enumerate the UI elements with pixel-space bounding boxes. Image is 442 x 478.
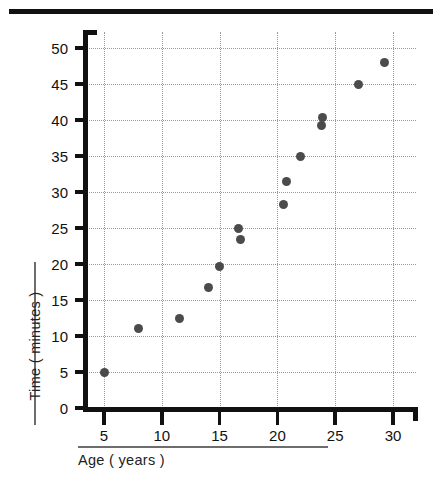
data-point <box>354 80 363 89</box>
y-tick-label-45: 45 <box>38 77 68 92</box>
y-axis-top-cap <box>83 30 97 35</box>
data-point <box>236 235 245 244</box>
x-tick-20 <box>276 412 280 425</box>
x-axis-title: Age ( years ) <box>78 452 165 468</box>
x-axis-line <box>83 407 418 412</box>
y-tick-label-30: 30 <box>38 185 68 200</box>
x-tick-label-10: 10 <box>142 428 182 443</box>
gridline-x-10 <box>162 32 163 408</box>
y-tick-40 <box>75 118 88 122</box>
y-tick-0 <box>75 406 88 410</box>
y-tick-label-25: 25 <box>38 221 68 236</box>
gridline-x-15 <box>220 32 221 408</box>
y-tick-45 <box>75 82 88 86</box>
x-tick-30 <box>391 412 395 425</box>
gridline-y-50 <box>86 48 416 49</box>
data-point <box>204 283 213 292</box>
gridline-y-20 <box>86 264 416 265</box>
y-tick-label-35: 35 <box>38 149 68 164</box>
data-point <box>282 177 291 186</box>
data-point <box>296 152 305 161</box>
gridline-y-10 <box>86 336 416 337</box>
data-point <box>279 200 288 209</box>
y-axis-line <box>83 30 88 412</box>
gridline-y-25 <box>86 228 416 229</box>
data-point <box>380 58 389 67</box>
gridline-x-25 <box>335 32 336 408</box>
x-tick-15 <box>218 412 222 425</box>
y-tick-25 <box>75 226 88 230</box>
y-tick-30 <box>75 190 88 194</box>
x-tick-label-25: 25 <box>315 428 355 443</box>
x-axis-title-rule <box>78 446 328 448</box>
y-tick-label-40: 40 <box>38 113 68 128</box>
x-tick-label-15: 15 <box>200 428 240 443</box>
gridline-x-30 <box>393 32 394 408</box>
y-tick-50 <box>75 46 88 50</box>
gridline-y-35 <box>86 156 416 157</box>
x-tick-label-30: 30 <box>373 428 413 443</box>
y-axis-title: Time ( minutes ) <box>27 256 43 436</box>
y-tick-10 <box>75 334 88 338</box>
y-tick-5 <box>75 370 88 374</box>
gridline-y-40 <box>86 120 416 121</box>
x-axis-end-cap <box>413 407 418 421</box>
data-point <box>175 314 184 323</box>
data-point <box>134 324 143 333</box>
x-tick-label-20: 20 <box>257 428 297 443</box>
gridline-y-45 <box>86 84 416 85</box>
y-tick-label-50: 50 <box>38 41 68 56</box>
x-tick-label-5: 5 <box>84 428 124 443</box>
data-point <box>234 224 243 233</box>
y-tick-35 <box>75 154 88 158</box>
x-tick-5 <box>102 412 106 425</box>
y-tick-15 <box>75 298 88 302</box>
scatter-plot: 05101520253035404550 51015202530 Time ( … <box>0 0 442 478</box>
gridline-x-20 <box>277 32 278 408</box>
gridline-y-30 <box>86 192 416 193</box>
gridline-y-5 <box>86 372 416 373</box>
data-point <box>100 368 109 377</box>
x-tick-10 <box>160 412 164 425</box>
gridline-x-5 <box>104 32 105 408</box>
x-tick-25 <box>333 412 337 425</box>
y-tick-20 <box>75 262 88 266</box>
data-point <box>215 262 224 271</box>
gridline-y-15 <box>86 300 416 301</box>
